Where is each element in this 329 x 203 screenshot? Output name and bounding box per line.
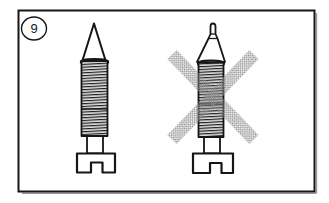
figure-frame <box>19 11 315 192</box>
slotted-screw-head <box>77 154 115 173</box>
needle-screw-sharp-tip-icon <box>77 24 115 173</box>
figure-number: 9 <box>30 21 37 36</box>
screw-neck <box>87 136 103 154</box>
slotted-screw-head <box>193 154 233 174</box>
threaded-body <box>82 61 108 136</box>
figure-9-illustration: 9 <box>0 0 329 203</box>
screw-neck <box>204 137 220 154</box>
figure-number-badge: 9 <box>22 17 47 40</box>
damaged-tip-cone <box>197 24 225 63</box>
needle-tip-cone <box>82 24 106 63</box>
